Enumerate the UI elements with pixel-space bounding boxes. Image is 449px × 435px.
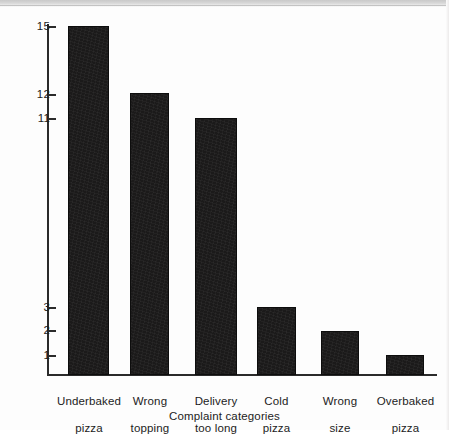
bar-overbaked-pizza — [386, 355, 424, 375]
y-tick-label-2: 2 — [24, 325, 50, 337]
y-tick-mark-1 — [49, 355, 56, 357]
x-category-label-line1: Overbaked — [377, 395, 435, 407]
x-category-label-line1: Wrong — [133, 395, 167, 407]
y-tick-mark-11 — [49, 118, 56, 120]
bar-wrong-size — [321, 331, 359, 375]
y-tick-label-12: 12 — [24, 89, 50, 101]
y-tick-mark-12 — [49, 94, 56, 96]
bar-wrong-topping — [130, 93, 169, 375]
y-tick-label-11: 11 — [24, 113, 50, 125]
bar-delivery-too-long — [195, 118, 237, 375]
x-category-label-line1: Wrong — [323, 395, 357, 407]
x-category-label-overbaked-pizza: Overbaked pizza — [358, 381, 449, 435]
x-category-label-line1: Delivery — [195, 395, 238, 407]
x-category-label-line2: topping — [131, 422, 170, 434]
bar-cold-pizza — [257, 307, 296, 375]
x-category-label-line2: pizza — [75, 422, 103, 434]
x-axis-title: Complaint categories — [0, 410, 449, 423]
y-tick-label-1: 1 — [24, 350, 50, 362]
y-tick-mark-3 — [49, 307, 56, 309]
y-tick-mark-15 — [49, 26, 56, 28]
x-category-label-line2: pizza — [392, 422, 420, 434]
x-category-label-line1: Cold — [264, 395, 288, 407]
y-tick-mark-2 — [49, 330, 56, 332]
y-tick-label-15: 15 — [24, 21, 50, 33]
x-category-label-line2: size — [329, 422, 350, 434]
scan-artifact-top — [0, 0, 449, 7]
scan-artifact-right — [446, 0, 449, 430]
x-category-label-line2: too long — [195, 422, 237, 434]
x-category-label-line2: pizza — [263, 422, 291, 434]
bar-underbaked-pizza — [68, 26, 109, 375]
y-tick-label-3: 3 — [24, 302, 50, 314]
